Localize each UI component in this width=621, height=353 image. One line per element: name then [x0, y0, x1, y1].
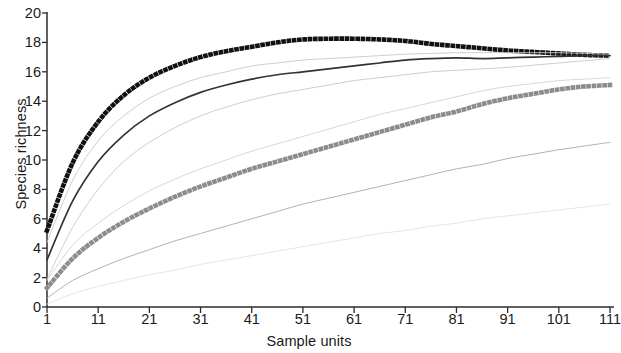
data-curves — [47, 39, 610, 304]
curve-black-dotted-upper — [47, 39, 610, 231]
curve-gray-dotted-second — [47, 85, 610, 288]
curve-gray-thin-second-upper — [47, 78, 610, 281]
curve-gray-thin-third — [47, 142, 610, 298]
curve-solid-black-mean — [47, 56, 610, 260]
